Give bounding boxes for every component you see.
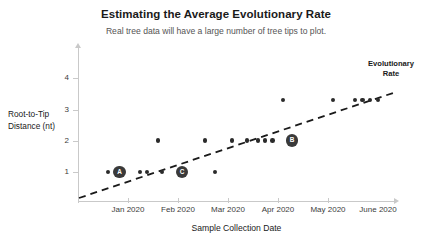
data-point xyxy=(138,170,143,175)
data-point xyxy=(353,98,358,103)
data-point-a: A xyxy=(113,166,126,179)
x-axis-title: Sample Collection Date xyxy=(78,223,395,233)
y-axis-title-line-2: Distance (nt) xyxy=(8,120,70,132)
x-axis-line xyxy=(78,201,395,202)
data-point xyxy=(368,98,373,103)
x-tick-mark xyxy=(328,198,329,203)
trendline-annotation: Evolutionary Rate xyxy=(352,59,430,78)
y-tick-mark xyxy=(73,141,78,142)
data-point-c: C xyxy=(176,166,189,179)
y-tick-mark xyxy=(73,78,78,79)
data-point xyxy=(203,138,208,143)
data-point xyxy=(156,138,161,143)
data-point xyxy=(245,138,250,143)
x-tick-mark xyxy=(128,198,129,203)
x-tick-mark xyxy=(78,198,79,203)
evolutionary-rate-scatter-chart: Estimating the Average Evolutionary Rate… xyxy=(0,0,432,246)
y-axis-title-line-1: Root-to-Tip xyxy=(8,108,70,120)
x-axis-arrow-icon xyxy=(394,198,399,204)
y-axis-arrow-icon xyxy=(75,43,81,48)
data-point xyxy=(281,98,286,103)
x-tick-label: June 2020 xyxy=(348,205,408,214)
y-axis-title: Root-to-Tip Distance (nt) xyxy=(8,108,70,132)
data-point xyxy=(230,138,235,143)
y-axis-line xyxy=(78,47,79,201)
data-point xyxy=(376,98,381,103)
data-point xyxy=(106,170,111,175)
x-tick-mark xyxy=(228,198,229,203)
data-point xyxy=(160,170,165,175)
y-tick-label: 2 xyxy=(53,136,69,145)
data-point xyxy=(263,138,268,143)
data-point xyxy=(256,138,261,143)
data-point xyxy=(270,138,275,143)
trendline-annotation-line-1: Evolutionary xyxy=(352,59,430,69)
y-tick-label: 4 xyxy=(53,73,69,82)
x-tick-mark xyxy=(278,198,279,203)
data-point xyxy=(145,170,150,175)
data-point xyxy=(331,98,336,103)
data-point xyxy=(360,98,365,103)
x-tick-mark xyxy=(178,198,179,203)
data-point-b: B xyxy=(286,134,299,147)
y-tick-mark xyxy=(73,110,78,111)
data-point xyxy=(213,170,218,175)
y-tick-mark xyxy=(73,172,78,173)
chart-subtitle: Real tree data will have a large number … xyxy=(0,26,432,36)
chart-title: Estimating the Average Evolutionary Rate xyxy=(0,8,432,20)
y-tick-label: 1 xyxy=(53,167,69,176)
trendline-annotation-line-2: Rate xyxy=(352,69,430,79)
